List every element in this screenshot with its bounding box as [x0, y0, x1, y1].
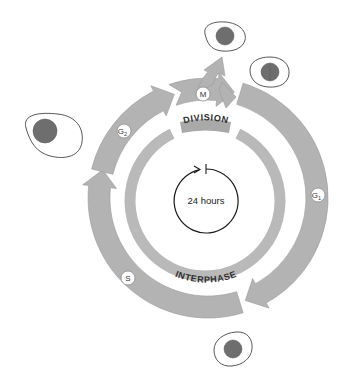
cell-g1	[214, 332, 252, 366]
cell-nucleus	[224, 340, 242, 358]
phase-arrow-s	[83, 170, 243, 318]
cell-nucleus	[33, 119, 57, 143]
svg-text:S: S	[125, 274, 130, 283]
clock: 24 hours	[174, 164, 238, 233]
cell-cycle-diagram: DIVISION INTERPHASE 24 hours M G1 S G2	[0, 0, 340, 385]
phase-badge-g2: G2	[117, 124, 131, 138]
center-label: 24 hours	[188, 195, 225, 206]
cell-daughter-1	[205, 22, 246, 51]
svg-text:M: M	[200, 90, 207, 99]
clock-arrowhead-icon	[194, 166, 200, 173]
phase-badge-g1: G1	[311, 188, 325, 202]
cell-g2	[25, 113, 82, 157]
phase-badge-s: S	[121, 271, 135, 285]
phase-badge-m: M	[196, 87, 210, 101]
phase-arrow-g2	[92, 86, 175, 175]
cell-daughter-2	[250, 57, 289, 87]
cell-nucleus	[216, 27, 234, 45]
